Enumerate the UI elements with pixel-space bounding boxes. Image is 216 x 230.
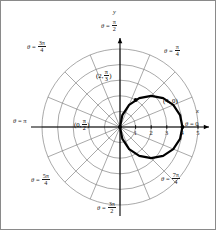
angle-label-theta-7pi-4: θ = 7π4	[161, 172, 180, 186]
point-label-denominator: 3	[104, 76, 109, 83]
angle-label-denominator: 2	[112, 26, 117, 33]
angle-label-denominator: 4	[38, 47, 46, 54]
x-tick-label-2: 2	[149, 130, 152, 136]
polar-graph-figure: θ = π2 θ = 3π4 θ = π4 θ = π θ = 0 θ = 5π…	[0, 0, 216, 230]
point-label-open: (2,	[96, 72, 103, 79]
angle-label-theta-5pi-4: θ = 5π4	[31, 173, 50, 187]
y-axis-label: y	[113, 9, 116, 15]
x-tick-label-3: 3	[165, 130, 168, 136]
point-label-close: )	[87, 121, 89, 128]
point-label-2-pi-3: (2,π3)	[96, 69, 112, 83]
angle-label-theta-pi-4: θ = π4	[164, 44, 180, 58]
angle-label-theta-pi-2: θ = π2	[101, 19, 117, 33]
angle-label-value: 0	[195, 120, 198, 127]
angle-label-value: π	[23, 117, 26, 124]
point-label-close: )	[109, 72, 111, 79]
point-label-0-pi-2: (0,π2)	[74, 118, 90, 132]
polar-plot-canvas	[1, 1, 216, 230]
x-tick-label-5: 5	[196, 130, 199, 136]
angle-label-denominator: 4	[172, 179, 180, 186]
angle-label-theta-3pi-2: θ = 3π2	[97, 201, 116, 215]
point-label-4-0: (4, 0)	[163, 98, 178, 105]
point-label-open: (0,	[74, 121, 81, 128]
angle-label-theta-pi: θ = π	[13, 118, 27, 125]
x-tick-label-4: 4	[181, 130, 184, 136]
x-axis-label: x	[196, 108, 199, 114]
angle-label-theta-3pi-4: θ = 3π4	[27, 40, 46, 54]
angle-label-denominator: 4	[175, 51, 180, 58]
angle-label-denominator: 2	[108, 208, 116, 215]
angle-label-theta-0: θ = 0	[185, 121, 199, 128]
angle-label-denominator: 4	[42, 180, 50, 187]
point-label-denominator: 2	[82, 125, 87, 132]
x-tick-label-1: 1	[134, 130, 137, 136]
